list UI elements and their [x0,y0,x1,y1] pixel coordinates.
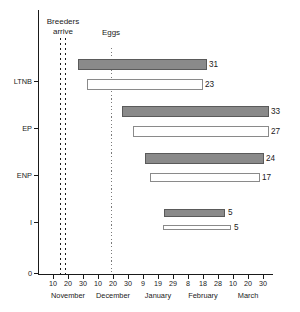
y-axis-label-zero: 0 [2,269,32,278]
y-tick-ep [34,128,38,129]
y-tick-ltnb [34,81,38,82]
plot-area: LTNB EP ENP I 0 10 20 30 10 20 30 9 19 2… [0,0,300,312]
bar-ep-filled [122,106,269,117]
y-tick-enp [34,175,38,176]
chart-container: LTNB EP ENP I 0 10 20 30 10 20 30 9 19 2… [0,0,300,312]
bar-value-i-filled: 5 [228,208,233,217]
month-label-march: March [218,291,278,300]
bar-value-enp-hollow: 17 [262,173,271,182]
y-axis-label-i: I [2,218,32,227]
x-axis-line [38,274,273,275]
x-tick-8 [173,275,174,279]
x-tick-2 [83,275,84,279]
x-tick-14 [263,275,264,279]
bar-value-ep-filled: 33 [271,107,280,116]
bar-value-ltnb-hollow: 23 [205,80,214,89]
bar-value-enp-filled: 24 [266,154,275,163]
x-tick-13 [248,275,249,279]
x-tick-1 [68,275,69,279]
x-tick-11 [218,275,219,279]
x-tick-10 [203,275,204,279]
y-axis-line [38,10,39,274]
bar-enp-hollow [150,173,260,182]
bar-ep-hollow [133,126,269,137]
y-tick-i [34,222,38,223]
eggs-label: Eggs [86,28,136,38]
bar-value-ltnb-filled: 31 [209,60,218,69]
breeders-arrive-line-2 [65,38,66,274]
x-tick-4 [113,275,114,279]
y-tick-zero [34,273,38,274]
bar-ltnb-hollow [87,79,203,90]
breeders-arrive-label-line1: Breeders [33,17,93,27]
breeders-arrive-line-1 [60,38,61,274]
x-tick-7 [158,275,159,279]
bar-enp-filled [145,153,264,164]
y-axis-label-ep: EP [2,124,32,133]
x-tick-12 [233,275,234,279]
bar-ltnb-filled [78,59,207,70]
x-tick-0 [53,275,54,279]
bar-i-filled [164,209,225,217]
x-tick-5 [128,275,129,279]
bar-i-hollow [163,225,231,230]
y-axis-label-enp: ENP [2,171,32,180]
bar-value-ep-hollow: 27 [271,127,280,136]
bar-value-i-hollow: 5 [234,223,239,232]
y-axis-label-ltnb: LTNB [2,77,32,86]
x-tick-9 [188,275,189,279]
breeders-arrive-label-line2: arrive [33,27,93,37]
x-tick-label-14: 30 [252,280,274,288]
x-tick-6 [143,275,144,279]
x-tick-3 [98,275,99,279]
